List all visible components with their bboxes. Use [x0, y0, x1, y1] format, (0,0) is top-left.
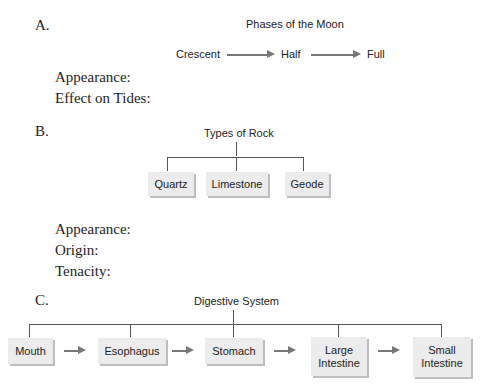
section-a-title: Phases of the Moon [246, 18, 344, 30]
prompt-tenacity: Tenacity: [55, 263, 111, 280]
tree-branch [29, 324, 442, 325]
tree-drop [338, 324, 339, 337]
section-c-letter: C. [35, 292, 49, 309]
tree-stem [233, 310, 234, 324]
tree-drop [441, 324, 442, 337]
prompt-appearance: Appearance: [55, 69, 131, 86]
tree-drop [167, 157, 168, 171]
box-stomach: Stomach [205, 338, 263, 364]
arrow-right-icon [311, 50, 361, 59]
box-quartz: Quartz [148, 172, 194, 196]
prompt-origin: Origin: [55, 242, 98, 259]
phase-full: Full [367, 48, 385, 60]
arrow-right-icon [64, 346, 86, 355]
box-mouth: Mouth [8, 338, 53, 364]
tree-drop [130, 324, 131, 337]
arrow-right-icon [227, 50, 275, 59]
box-small-intestine: Small Intestine [413, 337, 471, 377]
tree-stem [236, 142, 237, 156]
phase-half: Half [281, 48, 301, 60]
arrow-right-icon [378, 346, 400, 355]
tree-drop [303, 157, 304, 171]
section-b-title: Types of Rock [204, 127, 274, 139]
tree-drop [236, 157, 237, 171]
section-b-letter: B. [35, 123, 49, 140]
box-large-intestine: Large Intestine [311, 337, 367, 376]
arrow-right-icon [274, 346, 296, 355]
box-esophagus: Esophagus [98, 338, 166, 364]
section-c-title: Digestive System [194, 295, 279, 307]
box-geode: Geode [285, 172, 329, 196]
tree-drop [29, 324, 30, 337]
section-a-letter: A. [35, 17, 50, 34]
prompt-appearance: Appearance: [55, 221, 131, 238]
tree-drop [233, 324, 234, 337]
prompt-effect-on-tides: Effect on Tides: [55, 90, 151, 107]
box-limestone: Limestone [206, 172, 268, 196]
phase-crescent: Crescent [176, 48, 220, 60]
arrow-right-icon [172, 346, 194, 355]
